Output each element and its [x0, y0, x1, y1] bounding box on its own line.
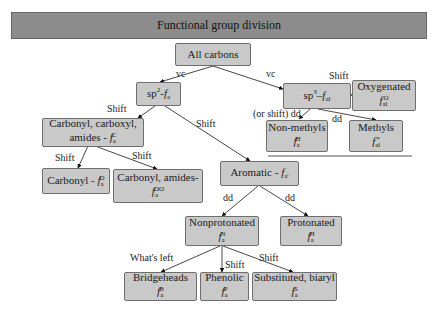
node-symbol: faH — [307, 228, 314, 246]
edge-label-shift-carbonyl-amides: Shift — [132, 150, 151, 161]
edge-label-whats-left: What's left — [130, 252, 173, 263]
edge-label-shift-carbonyl-group: Shift — [107, 103, 126, 114]
node-label: Bridgeheads — [133, 272, 188, 283]
node-non-methyls: Non-methyls faH — [266, 120, 328, 152]
node-label: Protonated — [287, 217, 335, 228]
node-label: Methyls — [358, 122, 394, 133]
node-all-carbons: All carbons — [175, 43, 251, 66]
node-substituted-biaryl: Substituted, biaryl faS — [252, 272, 337, 301]
node-bridgeheads: Bridgeheads faB — [124, 272, 197, 301]
node-carbonyl: Carbonyl - faO — [42, 168, 110, 194]
node-aromatic: Aromatic - fa' — [220, 161, 299, 186]
edge-label-shift-oxygenated: Shift — [329, 70, 348, 81]
node-label: Phenolic — [205, 272, 244, 283]
node-label: Carbonyl, carboxyl, — [49, 118, 137, 129]
node-symbol: faOO — [152, 183, 164, 201]
node-phenolic: Phenolic faP — [200, 272, 249, 301]
node-label: Carbonyl, amides- — [117, 172, 198, 183]
node-symbol: faH — [293, 133, 300, 151]
node-carbonyl-carboxyl-amides: Carbonyl, carboxyl, amides - faC — [42, 118, 144, 147]
node-label: All carbons — [187, 49, 238, 60]
edge-label-shift-substituted: Shift — [259, 252, 278, 263]
edge-label-or-shift-dd: (or shift) dd — [253, 108, 301, 119]
node-symbol: faP — [221, 283, 227, 301]
edge-label-shift-phenolic: Shift — [225, 259, 244, 270]
edge-label-shift-carbonyl: Shift — [55, 152, 74, 163]
edge-label-vc-left: vc — [176, 68, 185, 79]
edge-label-shift-aromatic: Shift — [196, 118, 215, 129]
node-carbonyl-amides: Carbonyl, amides- faOO — [113, 169, 203, 203]
node-label: Nonprotonated — [189, 217, 255, 228]
node-sp2: sp2-fa — [136, 82, 181, 106]
node-label: Carbonyl - faO — [47, 172, 104, 190]
node-label-line2: amides - faC — [69, 129, 116, 147]
node-symbol: faS — [291, 283, 297, 301]
node-label: sp3–fal — [304, 87, 331, 105]
node-symbol: falO — [379, 92, 388, 110]
node-label: Oxygenated — [357, 81, 410, 92]
node-methyls: Methyls fal* — [349, 120, 403, 152]
node-nonprotonated: Nonprotonated faN — [185, 216, 259, 246]
node-label: Substituted, biaryl — [254, 272, 335, 283]
node-label: Aromatic - fa' — [230, 166, 288, 182]
node-symbol: faB — [157, 283, 164, 301]
node-sp3: sp3–fal — [283, 83, 351, 109]
node-symbol: faN — [218, 228, 225, 246]
node-symbol: fal* — [372, 133, 380, 151]
node-label: Non-methyls — [268, 122, 325, 133]
node-protonated: Protonated faH — [280, 216, 342, 246]
node-label: sp2-fa — [147, 85, 170, 103]
edge-label-dd-protonated: dd — [285, 192, 295, 203]
node-oxygenated: Oxygenated falO — [352, 80, 416, 111]
edge-label-vc-right: vc — [266, 68, 275, 79]
edge-label-dd-methyls: dd — [332, 113, 342, 124]
edge-label-dd-nonprotonated: dd — [223, 192, 233, 203]
